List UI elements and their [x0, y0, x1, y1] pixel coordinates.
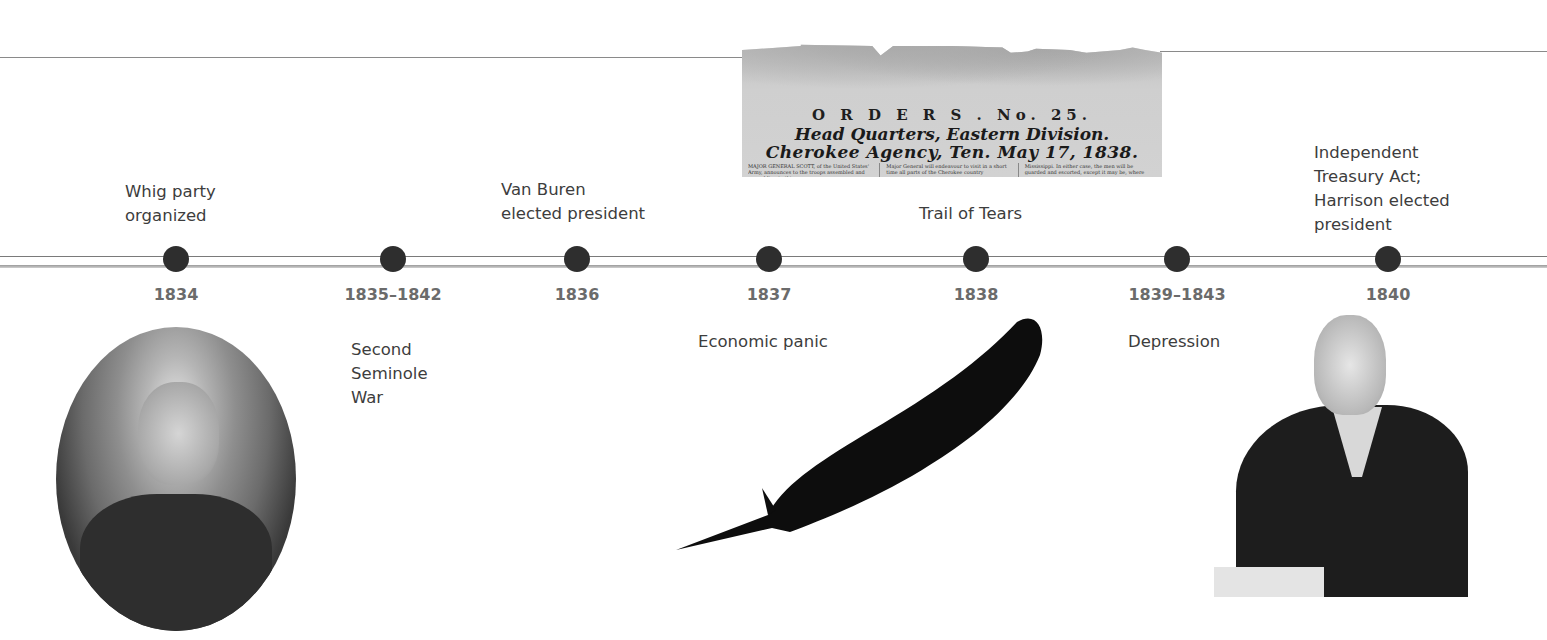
newspaper-clipping: O R D E R S . No. 25. Head Quarters, Eas…	[742, 42, 1162, 177]
portrait-face	[138, 382, 220, 485]
event-1840: Independent Treasury Act; Harrison elect…	[1314, 141, 1450, 237]
event-1838: Trail of Tears	[919, 202, 1022, 226]
top-rule-left	[0, 57, 742, 58]
newspaper-headline-1: Head Quarters, Eastern Division.	[742, 124, 1162, 144]
timeline-marker-1834	[163, 246, 189, 272]
timeline-marker-1835-1842	[380, 246, 406, 272]
year-label: 1837	[747, 285, 792, 304]
event-1835-1842: Second Seminole War	[351, 338, 428, 410]
feather-image	[672, 310, 1047, 555]
newspaper-orders-title: O R D E R S . No. 25.	[742, 106, 1162, 124]
top-rule-right	[1160, 51, 1547, 52]
event-1839-1843: Depression	[1128, 330, 1220, 354]
timeline-marker-1838	[963, 246, 989, 272]
newspaper-headline-2: Cherokee Agency, Ten. May 17, 1838.	[742, 142, 1162, 162]
portrait-henry-clay	[56, 327, 296, 631]
water-stain	[742, 42, 1162, 97]
year-label: 1835–1842	[344, 285, 441, 304]
portrait-paper	[1214, 567, 1324, 597]
portrait-william-henry-harrison	[1214, 315, 1468, 597]
newspaper-column: Mississippi. In either case, the men wil…	[1025, 163, 1156, 177]
year-label: 1840	[1366, 285, 1411, 304]
timeline-marker-1837	[756, 246, 782, 272]
timeline-marker-1836	[564, 246, 590, 272]
year-label: 1834	[154, 285, 199, 304]
newspaper-body: MAJOR GENERAL SCOTT, of the United State…	[748, 163, 1156, 177]
timeline-marker-1840	[1375, 246, 1401, 272]
newspaper-column: Major General will endeavour to visit in…	[886, 163, 1018, 177]
year-label: 1836	[555, 285, 600, 304]
portrait-face	[1314, 315, 1386, 415]
year-label: 1839–1843	[1128, 285, 1225, 304]
event-1834: Whig party organized	[125, 180, 216, 228]
year-label: 1838	[954, 285, 999, 304]
portrait-coat	[80, 494, 272, 631]
timeline-marker-1839-1843	[1164, 246, 1190, 272]
event-1836: Van Buren elected president	[501, 178, 645, 226]
newspaper-column: MAJOR GENERAL SCOTT, of the United State…	[748, 163, 880, 177]
